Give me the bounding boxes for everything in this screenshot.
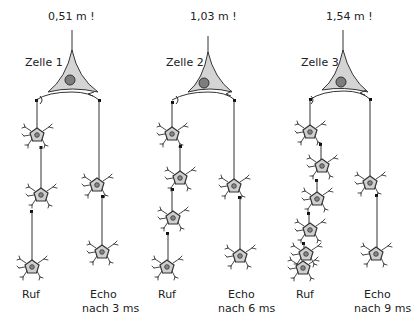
call-neuron — [307, 155, 338, 179]
delay-line-diagram: 0,51 m ! Zelle 1 Ruf — [0, 0, 412, 326]
call-neuron — [158, 207, 189, 231]
cell-nucleus — [199, 78, 209, 88]
cell-label: Zelle 3 — [301, 56, 339, 69]
echo-delay-label: nach 6 ms — [218, 302, 275, 315]
panel-2: 1,03 m ! Zelle 2 — [152, 10, 275, 315]
dendrite-arc — [172, 92, 235, 100]
call-label: Ruf — [22, 288, 41, 301]
cell-label: Zelle 2 — [166, 56, 204, 69]
echo-label: Echo — [364, 288, 391, 301]
call-neuron — [288, 257, 319, 281]
call-label: Ruf — [296, 288, 315, 301]
diagram-canvas: 0,51 m ! Zelle 1 Ruf — [0, 0, 412, 326]
panel-3: 1,54 m ! Zelle 3 — [288, 10, 411, 315]
cell-label: Zelle 1 — [25, 56, 63, 69]
distance-label: 0,51 m ! — [48, 10, 95, 23]
call-label: Ruf — [158, 288, 177, 301]
distance-label: 1,03 m ! — [190, 10, 237, 23]
echo-label: Echo — [228, 288, 255, 301]
echo-label: Echo — [90, 288, 117, 301]
echo-neuron — [82, 174, 113, 198]
distance-label: 1,54 m ! — [326, 10, 373, 23]
echo-delay-label: nach 9 ms — [354, 302, 411, 315]
panel-1: 0,51 m ! Zelle 1 Ruf — [17, 10, 139, 315]
cell-nucleus — [336, 77, 346, 87]
cell-nucleus — [65, 75, 75, 85]
call-neuron — [295, 219, 326, 243]
echo-delay-label: nach 3 ms — [82, 302, 139, 315]
